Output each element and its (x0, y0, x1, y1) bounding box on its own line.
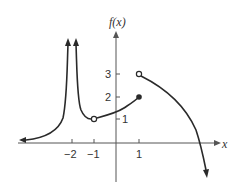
y-axis (113, 31, 119, 182)
y-axis-label: f(x) (109, 15, 126, 29)
left-arrow-icon (19, 137, 26, 143)
x-ticks (72, 139, 139, 143)
x-axis (18, 140, 221, 146)
center-piece-curve (97, 97, 139, 118)
y-axis-arrow-icon (113, 31, 119, 38)
right-branch-curve (141, 76, 206, 170)
open-point-neg1-1 (91, 116, 96, 121)
x-axis-arrow-icon (214, 140, 221, 146)
x-tick-label-neg1: −1 (87, 148, 100, 160)
up-arrow-icon-2 (73, 38, 79, 46)
x-axis-label: x (221, 137, 228, 151)
x-tick-label-neg2: −2 (64, 148, 77, 160)
y-tick-label-1: 1 (122, 113, 128, 125)
down-arrow-icon (203, 169, 209, 178)
open-point-1-3 (136, 71, 141, 76)
y-tick-label-2: 2 (105, 91, 111, 103)
up-arrow-icon (65, 38, 71, 46)
function-graph: −2 −1 1 1 2 3 x f(x) (0, 0, 240, 193)
left-branch-curve (26, 44, 68, 140)
y-tick-label-3: 3 (105, 68, 111, 80)
closed-point-1-2 (136, 94, 142, 100)
x-tick-label-1: 1 (136, 148, 142, 160)
middle-branch-curve (76, 44, 91, 119)
